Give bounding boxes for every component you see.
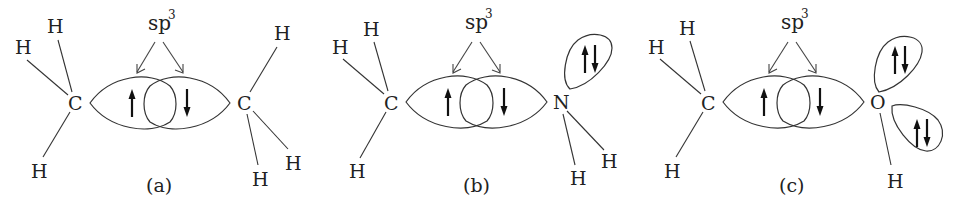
sigma-bond-lobes	[90, 77, 230, 129]
bond-line	[880, 113, 891, 165]
bond-line	[250, 47, 277, 92]
bond-line	[360, 112, 386, 158]
lone-pair-lobe	[892, 105, 943, 151]
bond-line	[343, 59, 384, 94]
spin-down-arrow-icon	[592, 45, 599, 73]
panel-b: sp 3 C H H H N H H (b)	[332, 7, 618, 196]
spin-up-arrow-icon	[445, 88, 452, 116]
spin-up-arrow-icon	[582, 45, 589, 73]
atom-nitrogen: N	[553, 91, 570, 113]
pointer-arrows	[453, 42, 500, 73]
atom-hydrogen: H	[679, 17, 696, 39]
bond-line	[253, 111, 288, 149]
atom-hydrogen: H	[601, 150, 618, 172]
lone-pair-lobe	[874, 37, 922, 92]
bond-line	[563, 114, 575, 165]
spin-down-arrow-icon	[817, 88, 824, 116]
bond-line	[690, 41, 705, 91]
sp-superscript: 3	[168, 8, 176, 22]
atom-hydrogen: H	[349, 160, 366, 182]
atom-hydrogen: H	[570, 167, 587, 189]
atom-hydrogen: H	[648, 36, 665, 58]
sigma-bond-lobes	[406, 76, 547, 128]
lone-pair-lobe	[565, 34, 612, 89]
spin-up-arrow-icon	[129, 89, 136, 117]
bond-line	[43, 112, 70, 157]
sp-superscript: 3	[801, 7, 809, 21]
sp3-label: sp 3	[465, 7, 493, 34]
atom-left-carbon: C	[701, 92, 716, 114]
lobe-left	[406, 76, 493, 128]
panel-caption-c: (c)	[779, 174, 804, 196]
atom-hydrogen: H	[285, 152, 302, 174]
bond-line	[660, 59, 701, 94]
atom-left-carbon: C	[384, 92, 399, 114]
panel-a: sp 3 C H H H C H H H (a)	[15, 8, 302, 196]
atom-right-carbon: C	[237, 92, 252, 114]
spin-down-arrow-icon	[184, 89, 191, 117]
spin-up-arrow-icon	[761, 88, 768, 116]
spin-down-arrow-icon	[501, 88, 508, 116]
bond-line	[247, 114, 258, 165]
atom-hydrogen: H	[47, 15, 64, 37]
sp3-label: sp 3	[781, 7, 809, 34]
atom-hydrogen: H	[15, 36, 32, 58]
sp-superscript: 3	[485, 7, 493, 21]
atom-hydrogen: H	[252, 168, 269, 190]
atom-hydrogen: H	[664, 160, 681, 182]
bond-line	[567, 111, 604, 150]
panel-caption-b: (b)	[463, 174, 490, 196]
atom-left-carbon: C	[68, 92, 83, 114]
bond-line	[676, 112, 703, 157]
bond-line	[58, 40, 72, 92]
sigma-bond-lobes	[723, 76, 864, 128]
atom-hydrogen: H	[274, 22, 291, 44]
atom-hydrogen: H	[332, 36, 349, 58]
panel-c: sp 3 C H H H O	[648, 7, 942, 196]
panel-caption-a: (a)	[146, 174, 172, 196]
spin-down-arrow-icon	[924, 119, 931, 147]
spin-down-arrow-icon	[902, 46, 909, 74]
atom-hydrogen: H	[887, 170, 904, 192]
atom-oxygen: O	[870, 91, 886, 113]
orbital-diagram-figure: sp 3 C H H H C H H H (a)	[0, 0, 954, 208]
spin-up-arrow-icon	[914, 119, 921, 147]
spin-up-arrow-icon	[892, 46, 899, 74]
bond-line	[374, 42, 388, 91]
bond-line	[27, 60, 68, 95]
atom-hydrogen: H	[363, 18, 380, 40]
sp3-label: sp 3	[148, 8, 176, 35]
lobe-left	[723, 76, 810, 128]
pointer-arrows	[769, 42, 816, 73]
atom-hydrogen: H	[31, 160, 48, 182]
pointer-arrows	[137, 42, 183, 73]
